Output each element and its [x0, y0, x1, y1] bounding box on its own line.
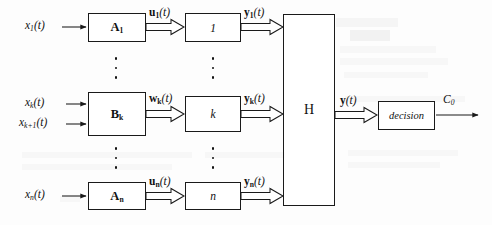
block-arrow-wk: [146, 107, 184, 122]
input-label-xk1: xk+1(t): [19, 117, 47, 129]
block-A1-label: A1: [111, 20, 124, 35]
block-arrow-y: [335, 108, 377, 123]
input-label-x1: x1(t): [25, 20, 45, 32]
block-arrow-yk: [241, 107, 283, 122]
block-decision-label: decision: [389, 110, 424, 121]
block-channel-n[interactable]: n: [185, 182, 241, 210]
block-channel-1[interactable]: 1: [185, 13, 241, 42]
block-arrow-yn: [241, 189, 283, 204]
input-label-xk: xk(t): [25, 97, 44, 109]
signal-label-u1: u1(t): [149, 7, 170, 19]
block-channel-1-label: 1: [210, 22, 216, 34]
signal-label-wk: wk(t): [149, 93, 172, 105]
signal-label-y: y(t): [340, 95, 357, 107]
signal-label-y1: y1(t): [244, 7, 264, 19]
block-Bk-label: Bk: [111, 107, 124, 122]
block-arrow-u1: [146, 20, 184, 35]
block-combiner-H-label: H: [304, 102, 314, 118]
block-decision[interactable]: decision: [378, 101, 435, 130]
block-channel-k[interactable]: k: [185, 96, 241, 132]
block-An[interactable]: An: [88, 182, 146, 210]
block-A1[interactable]: A1: [88, 13, 146, 42]
output-label-C0: C0: [443, 94, 454, 106]
block-channel-n-label: n: [210, 190, 216, 202]
block-channel-k-label: k: [210, 108, 215, 120]
block-An-label: An: [110, 189, 123, 204]
block-Bk[interactable]: Bk: [88, 92, 146, 136]
input-label-xn: xn(t): [25, 189, 45, 201]
block-diagram: x1(t) xk(t) xk+1(t) xn(t) A1 Bk An u1(t)…: [0, 0, 492, 225]
block-arrow-un: [146, 189, 184, 204]
signal-label-yk: yk(t): [244, 93, 265, 105]
block-combiner-H[interactable]: H: [283, 14, 335, 206]
block-arrow-y1: [241, 20, 283, 35]
signal-label-yn: yn(t): [244, 176, 265, 188]
signal-label-un: un(t): [149, 176, 171, 188]
